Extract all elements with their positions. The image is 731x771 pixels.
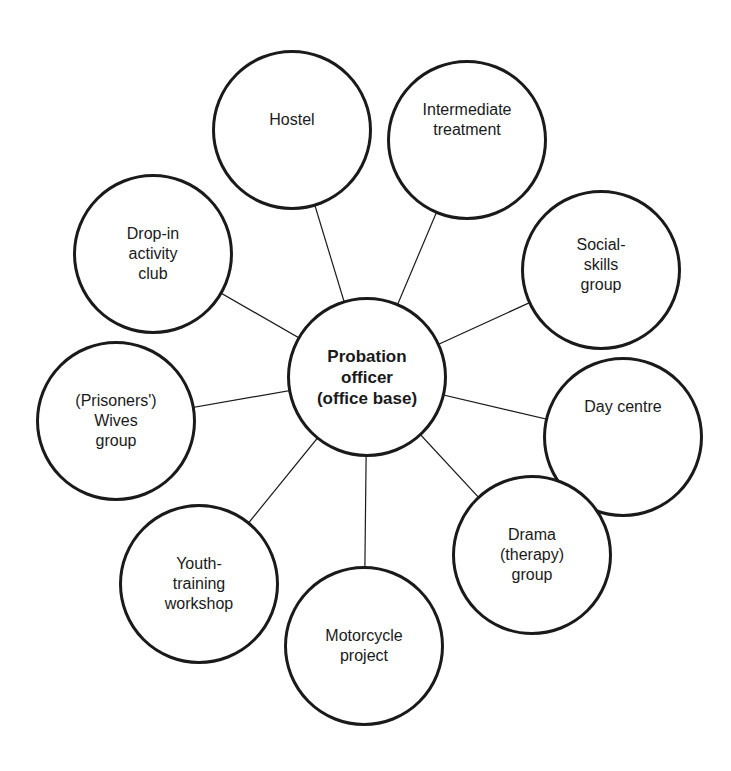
node-label: Motorcycle project bbox=[325, 626, 402, 666]
center-label: Probation officer (office base) bbox=[317, 346, 417, 409]
node-label: Social- skills group bbox=[577, 235, 626, 295]
node-label: Drop-in activity club bbox=[127, 224, 179, 284]
node-label: (Prisoners') Wives group bbox=[75, 391, 156, 451]
node-prisoners-wives-group: (Prisoners') Wives group bbox=[36, 341, 196, 501]
node-youth-training-workshop: Youth- training workshop bbox=[119, 504, 279, 664]
node-motorcycle-project: Motorcycle project bbox=[284, 566, 444, 726]
node-label: Day centre bbox=[584, 397, 661, 417]
node-label: Youth- training workshop bbox=[165, 554, 233, 614]
node-probation-officer: Probation officer (office base) bbox=[287, 297, 447, 457]
node-label: Intermediate treatment bbox=[423, 100, 512, 140]
node-intermediate-treatment: Intermediate treatment bbox=[387, 60, 547, 220]
node-label: Hostel bbox=[269, 110, 314, 130]
node-drama-therapy-group: Drama (therapy) group bbox=[452, 475, 612, 635]
node-drop-in-activity-club: Drop-in activity club bbox=[73, 174, 233, 334]
node-social-skills-group: Social- skills group bbox=[521, 190, 681, 350]
node-hostel: Hostel bbox=[212, 50, 372, 210]
node-label: Drama (therapy) group bbox=[500, 525, 564, 585]
